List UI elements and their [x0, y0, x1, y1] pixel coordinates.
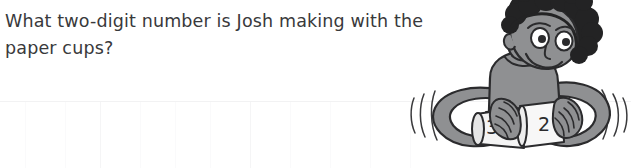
- vertical-rule: [210, 102, 211, 168]
- vertical-rule: [370, 102, 371, 168]
- vertical-rule: [140, 102, 141, 168]
- illustration-boy-holding-paper-cups: 30 2: [404, 0, 631, 168]
- worksheet-question-page: What two-digit number is Josh making wit…: [0, 0, 631, 168]
- question-line-2: paper cups?: [5, 35, 425, 62]
- vertical-rule: [290, 102, 291, 168]
- vertical-rule: [65, 102, 66, 168]
- right-hand: [553, 98, 582, 138]
- question-text: What two-digit number is Josh making wit…: [5, 8, 425, 62]
- eye-left: [531, 28, 549, 48]
- vertical-rule: [250, 102, 251, 168]
- vertical-rule: [175, 102, 176, 168]
- cup-label-2: 2: [538, 113, 550, 135]
- vertical-rule: [330, 102, 331, 168]
- cup-30-rim: [472, 113, 484, 145]
- question-line-1: What two-digit number is Josh making wit…: [5, 8, 425, 35]
- vertical-rule: [25, 102, 26, 168]
- vertical-rule: [100, 102, 101, 168]
- eye-right: [556, 32, 573, 51]
